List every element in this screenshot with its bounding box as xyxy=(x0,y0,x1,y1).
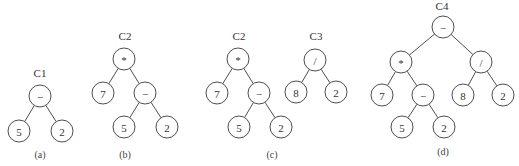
tree-node-operator-minus: − xyxy=(432,16,454,38)
tree-node-operand-5: 5 xyxy=(113,116,135,138)
node-label: − xyxy=(37,91,43,103)
tree-name-label: C1 xyxy=(34,67,47,79)
tree-node-operator-divide: / xyxy=(470,51,492,73)
tree-edge xyxy=(46,105,56,121)
tree-node-operand-2: 2 xyxy=(325,81,347,103)
node-label: 5 xyxy=(399,122,405,134)
node-label: 7 xyxy=(214,88,220,100)
tree-edge xyxy=(130,102,139,117)
tree-edge xyxy=(487,71,497,86)
tree-node-operand-2: 2 xyxy=(51,120,73,142)
node-label: − xyxy=(256,88,262,100)
tree-node-operand-8: 8 xyxy=(452,84,474,106)
tree-edge xyxy=(151,102,161,118)
tree-node-operand-2: 2 xyxy=(270,116,292,138)
node-label: 5 xyxy=(121,122,127,134)
tree-edge xyxy=(429,104,438,118)
nodes-layer: −52*7−52*7−52/82−*/7−8252 xyxy=(8,16,514,142)
tree-edge xyxy=(244,68,253,83)
node-label: − xyxy=(142,88,148,100)
tree-node-operator-minus: − xyxy=(412,84,434,106)
tree-node-operand-7: 7 xyxy=(206,82,228,104)
tree-name-label: C4 xyxy=(436,0,449,12)
tree-node-operand-8: 8 xyxy=(285,81,307,103)
tree-node-operator-minus: − xyxy=(134,82,156,104)
node-label: 2 xyxy=(500,90,506,102)
node-label: * xyxy=(398,57,404,69)
tree-node-operator-minus: − xyxy=(248,82,270,104)
node-label: * xyxy=(235,54,241,66)
edges-layer xyxy=(25,34,497,122)
tree-node-operator-multiply: * xyxy=(390,51,412,73)
tree-edge xyxy=(245,102,254,117)
tree-name-label: C2 xyxy=(119,30,132,42)
tree-node-operator-multiply: * xyxy=(227,48,249,70)
node-label: 7 xyxy=(379,90,385,102)
tree-node-operator-multiply: * xyxy=(113,48,135,70)
tree-edge xyxy=(468,72,475,86)
node-label: 5 xyxy=(16,126,22,138)
tree-edge xyxy=(409,34,434,55)
tree-edge xyxy=(408,104,417,118)
panel-caption: (c) xyxy=(266,149,277,161)
tree-edge xyxy=(223,68,232,83)
tree-node-operator-minus: − xyxy=(29,85,51,107)
expression-tree-diagram: −52*7−52*7−52/82−*/7−8252 C1(a)C2(b)C2C3… xyxy=(0,0,519,166)
node-label: 2 xyxy=(59,126,65,138)
tree-edge xyxy=(302,69,310,82)
tree-node-operand-2: 2 xyxy=(433,116,455,138)
tree-node-operator-divide: / xyxy=(304,49,326,71)
tree-node-operand-5: 5 xyxy=(391,116,413,138)
tree-edge xyxy=(25,105,35,121)
tree-node-operand-2: 2 xyxy=(492,84,514,106)
tree-node-operand-5: 5 xyxy=(8,120,30,142)
tree-node-operand-5: 5 xyxy=(228,116,250,138)
node-label: 2 xyxy=(278,122,284,134)
tree-edge xyxy=(407,71,417,86)
node-label: 2 xyxy=(441,122,447,134)
node-label: 2 xyxy=(333,87,339,99)
tree-edge xyxy=(130,68,139,83)
node-label: − xyxy=(440,22,446,34)
node-label: − xyxy=(420,90,426,102)
node-label: 2 xyxy=(164,122,170,134)
node-label: * xyxy=(121,54,127,66)
tree-name-label: C2 xyxy=(233,30,246,42)
tree-edge xyxy=(387,72,395,86)
tree-edge xyxy=(265,102,275,118)
tree-node-operand-2: 2 xyxy=(156,116,178,138)
tree-node-operand-7: 7 xyxy=(92,82,114,104)
node-label: 5 xyxy=(236,122,242,134)
panel-caption: (a) xyxy=(34,149,45,161)
tree-node-operand-7: 7 xyxy=(371,84,393,106)
panel-caption: (b) xyxy=(119,149,131,161)
node-label: 8 xyxy=(293,87,299,99)
tree-edge xyxy=(109,68,118,83)
tree-name-label: C3 xyxy=(310,30,323,42)
panel-caption: (d) xyxy=(437,146,449,158)
tree-edge xyxy=(451,34,473,54)
node-label: 7 xyxy=(100,88,106,100)
tree-edge xyxy=(321,69,330,83)
node-label: 8 xyxy=(460,90,466,102)
